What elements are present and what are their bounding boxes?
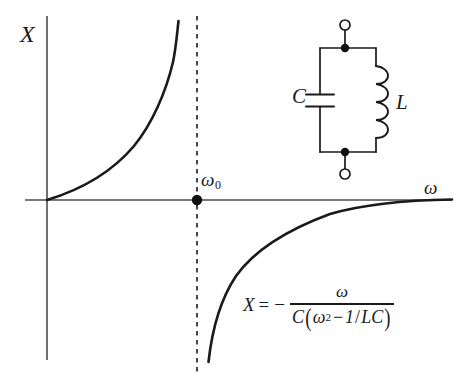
resonance-omega-subscript: 0 — [215, 178, 221, 192]
resonance-frequency-label: ω0 — [201, 170, 221, 191]
reactance-figure: X ω ω0 C L X = − ω C(ω2−1/LC) — [0, 0, 461, 378]
denominator-close-paren: ) — [384, 307, 390, 328]
equation-lhs: X — [243, 294, 255, 316]
resonance-point-dot — [192, 195, 202, 205]
inductor-label: L — [396, 92, 408, 113]
lc-circuit-diagram — [306, 20, 388, 179]
circuit-terminal-bottom — [340, 169, 350, 179]
equation-numerator: ω — [330, 282, 354, 303]
denominator-slash: / — [355, 307, 360, 328]
denominator-omega-exponent: 2 — [325, 311, 331, 323]
x-axis-label: ω — [424, 178, 437, 197]
reactance-curve-inductive-branch — [47, 21, 179, 200]
circuit-terminal-top — [340, 20, 350, 30]
capacitor-label: C — [292, 86, 306, 107]
inductor-coil — [376, 66, 388, 138]
equation-negative-sign: − — [274, 294, 285, 316]
circuit-node-top — [341, 44, 349, 52]
equation-equals-sign: = — [259, 294, 270, 316]
denominator-minus-sign: − — [333, 307, 343, 328]
equation-denominator: C(ω2−1/LC) — [290, 305, 394, 328]
resonance-omega-symbol: ω — [201, 169, 214, 190]
reactance-equation: X = − ω C(ω2−1/LC) — [243, 282, 394, 328]
y-axis-label: X — [20, 22, 35, 46]
circuit-node-bottom — [341, 148, 349, 156]
denominator-one: 1 — [345, 307, 354, 328]
denominator-capacitance-symbol: C — [292, 307, 304, 328]
denominator-omega-symbol: ω — [313, 307, 326, 328]
equation-fraction: ω C(ω2−1/LC) — [290, 282, 394, 328]
denominator-open-paren: ( — [305, 307, 311, 328]
denominator-lc-product: LC — [361, 307, 383, 328]
reactance-curve-capacitive-branch — [209, 200, 453, 363]
